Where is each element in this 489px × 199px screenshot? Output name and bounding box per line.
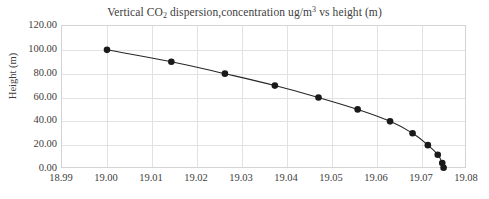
data-point	[409, 130, 416, 137]
chart-title: Vertical CO2 dispersion,concentration ug…	[0, 3, 489, 23]
data-point	[315, 94, 322, 101]
y-tick-label: 40.00	[1, 114, 57, 125]
chart-container: Vertical CO2 dispersion,concentration ug…	[0, 0, 489, 199]
data-point	[425, 142, 432, 149]
data-point	[222, 70, 229, 77]
data-point	[272, 82, 279, 89]
x-tick-label: 19.08	[436, 172, 489, 184]
y-tick-label: 120.00	[1, 19, 57, 30]
series-markers	[104, 47, 447, 172]
data-point	[354, 106, 361, 113]
data-point	[104, 47, 111, 54]
series-line	[107, 50, 444, 168]
y-tick-label: 100.00	[1, 43, 57, 54]
y-tick-label: 80.00	[1, 67, 57, 78]
chart-title-text-middle: dispersion,concentration ug/m	[167, 6, 312, 18]
chart-title-text-after: vs height (m)	[316, 6, 382, 18]
y-tick-label: 20.00	[1, 138, 57, 149]
data-point	[387, 118, 394, 125]
data-series-layer	[62, 26, 467, 169]
gridline-horizontal	[62, 169, 465, 170]
y-tick-label: 60.00	[1, 91, 57, 102]
plot-area	[61, 25, 466, 168]
chart-title-text-before: Vertical CO	[107, 6, 163, 18]
data-point	[434, 151, 441, 158]
data-point	[168, 58, 175, 65]
data-point	[440, 165, 447, 172]
